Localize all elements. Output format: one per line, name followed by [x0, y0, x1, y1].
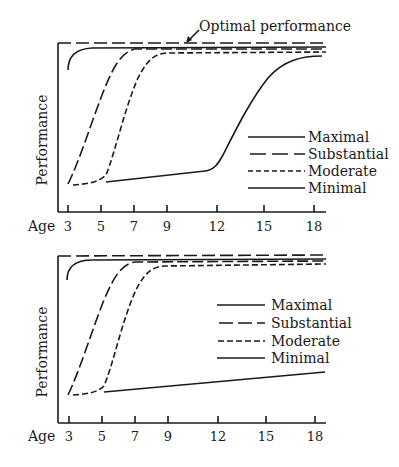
bottom-tick-5: 5 — [98, 429, 106, 444]
legend-label-substantial: Substantial — [308, 146, 389, 162]
top-chart: Age 3 5 7 9 12 15 18 Performance Optimal… — [27, 18, 389, 234]
bottom-y-axis-title: Performance — [34, 307, 50, 398]
bottom-x-ticks — [69, 416, 315, 423]
top-tick-7: 7 — [130, 219, 138, 234]
bottom-x-label-age: Age — [27, 428, 55, 444]
bottom-series-minimal — [104, 372, 325, 392]
top-series-minimal — [106, 56, 322, 182]
top-x-ticks — [68, 205, 314, 212]
top-legend: Maximal Substantial Moderate Minimal — [248, 129, 389, 196]
bottom-tick-9: 9 — [164, 429, 172, 444]
bottom-optimal-line — [58, 255, 326, 256]
legend-label-moderate: Moderate — [271, 333, 340, 349]
legend-label-minimal: Minimal — [271, 350, 330, 366]
top-x-label-age: Age — [27, 218, 55, 234]
top-tick-12: 12 — [209, 219, 226, 234]
legend-label-maximal: Maximal — [271, 297, 333, 313]
bottom-tick-15: 15 — [258, 429, 275, 444]
bottom-legend: Maximal Substantial Moderate Minimal — [217, 297, 352, 366]
top-tick-5: 5 — [97, 219, 105, 234]
top-tick-15: 15 — [256, 219, 273, 234]
bottom-tick-18: 18 — [307, 429, 324, 444]
top-y-axis-title: Performance — [34, 95, 50, 186]
top-series-moderate — [73, 52, 326, 185]
top-series-substantial — [68, 49, 326, 184]
legend-label-maximal: Maximal — [308, 129, 370, 145]
top-tick-3: 3 — [64, 219, 72, 234]
bottom-tick-7: 7 — [131, 429, 139, 444]
bottom-tick-12: 12 — [210, 429, 227, 444]
top-optimal-annotation: Optimal performance — [199, 18, 351, 34]
top-series-maximal — [68, 47, 326, 70]
top-tick-18: 18 — [306, 219, 323, 234]
legend-label-substantial: Substantial — [271, 315, 352, 331]
bottom-chart: Age 3 5 7 9 12 15 18 Performance Maximal… — [27, 255, 352, 444]
legend-label-minimal: Minimal — [308, 180, 367, 196]
bottom-tick-3: 3 — [65, 429, 73, 444]
legend-label-moderate: Moderate — [308, 163, 377, 179]
top-tick-9: 9 — [163, 219, 171, 234]
